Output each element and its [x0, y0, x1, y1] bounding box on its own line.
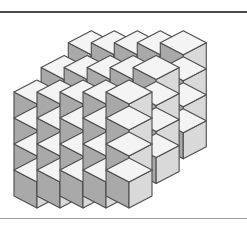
- figure-root: [0, 0, 247, 238]
- bottom-divider-rule: [0, 218, 247, 219]
- isometric-cube-stack: [0, 0, 247, 238]
